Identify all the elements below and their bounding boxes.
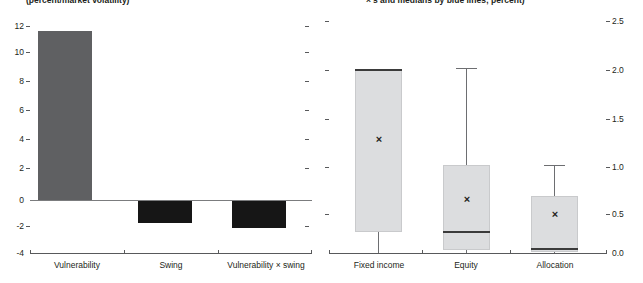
boxplot-equity-median — [443, 231, 490, 233]
left-ytick-mark-10 — [26, 52, 30, 53]
left-ytick-mark-right-12 — [305, 26, 309, 27]
right-ytick-mark-1p0 — [606, 167, 610, 168]
left-ytick-mark-right-4 — [305, 139, 309, 140]
right-ytick-mark-left-2p5 — [325, 21, 329, 22]
boxplot-equity-upper-cap — [456, 68, 477, 69]
left-ytick-mark-4 — [26, 139, 30, 140]
bar-swing — [138, 201, 192, 223]
left-xtick-mark-1 — [124, 250, 125, 254]
boxplot-fixed-income-box — [355, 70, 402, 232]
left-ytick-label-neg2: -2 — [2, 222, 24, 231]
right-ytick-label-1p5: 1.5 — [612, 115, 642, 124]
left-ytick-label-8: 8 — [2, 77, 24, 86]
left-ytick-mark-12 — [26, 26, 30, 27]
left-xtick-mark-start — [30, 250, 31, 254]
left-xlabel-swing: Swing — [124, 261, 218, 270]
boxplot-allocation-box — [531, 196, 578, 252]
left-bar-chart-panel: (percent/market volatility) 12 10 8 6 4 … — [0, 0, 320, 283]
boxplot-equity-mean-marker: × — [446, 194, 488, 205]
left-zero-line — [30, 200, 312, 201]
right-x-axis-line — [329, 253, 607, 254]
right-ytick-label-2p5: 2.5 — [612, 17, 642, 26]
left-xlabel-vulnerability-times-swing: Vulnerability × swing — [214, 261, 318, 270]
left-ytick-label-4: 4 — [2, 135, 24, 144]
right-ytick-mark-0p5 — [606, 214, 610, 215]
right-ytick-mark-left-1p0 — [325, 167, 329, 168]
right-ytick-mark-2p5 — [606, 21, 610, 22]
right-ytick-label-0p0: 0.0 — [612, 249, 642, 258]
left-x-axis-line — [30, 253, 312, 254]
boxplot-allocation-mean-marker: × — [534, 209, 576, 220]
right-xtick-mark-start — [329, 250, 330, 254]
right-ytick-label-1p0: 1.0 — [612, 163, 642, 172]
right-ytick-mark-1p5 — [606, 119, 610, 120]
left-ytick-label-0: 0 — [2, 196, 24, 205]
boxplot-fixed-income-mean-marker: × — [358, 134, 400, 145]
left-xtick-mark-2 — [218, 250, 219, 254]
right-xlabel-fixed-income: Fixed income — [332, 261, 426, 270]
bar-vulnerability-times-swing — [232, 201, 286, 228]
left-panel-title: (percent/market volatility) — [26, 0, 129, 5]
left-ytick-label-2: 2 — [2, 164, 24, 173]
left-ytick-mark-2 — [26, 168, 30, 169]
boxplot-allocation-upper-cap — [544, 165, 565, 166]
bar-vulnerability — [38, 31, 92, 200]
right-xtick-mark-2 — [510, 250, 511, 254]
right-ytick-label-2p0: 2.0 — [612, 66, 642, 75]
left-ytick-mark-6 — [26, 110, 30, 111]
left-ytick-label-10: 10 — [2, 48, 24, 57]
left-ytick-mark-right-10 — [305, 52, 309, 53]
left-ytick-label-12: 12 — [2, 22, 24, 31]
left-ytick-mark-right-2 — [305, 168, 309, 169]
right-xtick-mark-1 — [422, 250, 423, 254]
right-ytick-mark-left-0p5 — [325, 214, 329, 215]
right-box-plot-panel: ×'s and medians by blue lines; percent) … — [320, 0, 643, 283]
left-xlabel-vulnerability: Vulnerability — [30, 261, 124, 270]
right-ytick-mark-2p0 — [606, 70, 610, 71]
right-ytick-mark-left-2p0 — [325, 70, 329, 71]
left-xtick-mark-end — [311, 250, 312, 254]
figure-container: (percent/market volatility) 12 10 8 6 4 … — [0, 0, 643, 283]
boxplot-allocation-median — [531, 248, 578, 250]
left-ytick-mark-right-neg2 — [305, 226, 309, 227]
left-ytick-mark-right-8 — [305, 81, 309, 82]
boxplot-fixed-income-median — [355, 69, 402, 71]
left-ytick-label-6: 6 — [2, 106, 24, 115]
right-xlabel-equity: Equity — [420, 261, 512, 270]
right-ytick-label-0p5: 0.5 — [612, 210, 642, 219]
right-ytick-mark-left-1p5 — [325, 119, 329, 120]
right-xtick-mark-end — [606, 250, 607, 254]
left-ytick-label-neg4: -4 — [2, 249, 24, 258]
left-ytick-mark-right-6 — [305, 110, 309, 111]
right-panel-title: ×'s and medians by blue lines; percent) — [366, 0, 525, 5]
left-ytick-mark-neg2 — [26, 226, 30, 227]
right-xlabel-allocation: Allocation — [508, 261, 602, 270]
boxplot-equity-box — [443, 165, 490, 250]
left-ytick-mark-8 — [26, 81, 30, 82]
